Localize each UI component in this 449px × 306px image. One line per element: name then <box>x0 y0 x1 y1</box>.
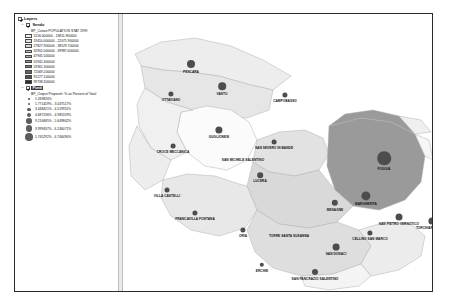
layer-checkbox-punti[interactable] <box>26 86 30 90</box>
class-swatch <box>25 60 32 64</box>
symbol-swatch <box>23 133 35 141</box>
class-label: 27827.900000 - 38529.700000 <box>34 44 79 48</box>
map-label-san-michele-salentino: SAN MICHELE SALENTINO <box>222 158 264 162</box>
map-label-ottaviano: OTTAVIANO <box>162 98 181 102</box>
class-label: 19410.000000 - 22071.900000 <box>34 39 79 43</box>
table-of-contents-panel[interactable]: Layers − Sendo BP_Cutout POPULATION STAT… <box>15 14 118 291</box>
layer-field-punti: BP_Output Proporzh: % as Percent of Tota… <box>31 92 116 96</box>
map-label-san-pietro-vernotico: SAN PIETRO VERNOTICO <box>379 222 419 226</box>
map-label-campobasso: CAMPOBASSO <box>273 99 297 103</box>
symbol-swatch <box>23 98 35 100</box>
expander-minus-icon[interactable]: − <box>20 23 25 28</box>
map-symbol[interactable] <box>165 188 170 193</box>
legend-symbol-row[interactable]: 1.771459% - 3.047517% <box>23 102 116 106</box>
map-label-oria: ORIA <box>239 234 247 238</box>
map-symbol[interactable] <box>218 82 226 90</box>
map-label-croce-meccanica: CROCE MECCANICA <box>157 150 190 154</box>
class-swatch <box>25 65 32 69</box>
class-swatch <box>25 55 32 59</box>
map-label-margherita: MARGHERITA <box>355 202 377 206</box>
map-symbol[interactable] <box>312 269 318 275</box>
class-swatch <box>25 80 32 84</box>
legend-class-row[interactable]: 27827.900000 - 38529.700000 <box>25 44 116 48</box>
legend-symbol-row[interactable]: 9.216685% - 5.649842% <box>23 118 116 124</box>
legend-class-row[interactable]: 5156.000000 - 13811.900000 <box>25 34 116 38</box>
class-swatch <box>25 75 32 79</box>
map-label-guglionesi: GUGLIONESI <box>209 135 230 139</box>
legend-symbol-row[interactable]: 4.687136% - 4.985319% <box>23 113 116 117</box>
symbol-label: 4.687136% - 4.985319% <box>35 113 71 117</box>
symbol-swatch <box>23 103 35 105</box>
legend-symbol-row[interactable]: 5.745292% - 6.746490% <box>23 133 116 141</box>
legend-class-row[interactable]: 72069.200000 <box>25 70 116 74</box>
map-label-san-pancrazio-salentino: SAN PANCRAZIO SALENTINO <box>292 277 339 281</box>
class-label: 99738.300000 <box>34 80 55 84</box>
map-symbol[interactable] <box>272 140 277 145</box>
class-label: 5156.000000 - 13811.900000 <box>34 34 77 38</box>
class-swatch <box>25 39 32 43</box>
class-label: 91277.100000 <box>34 75 55 79</box>
class-swatch <box>25 44 32 48</box>
layer-node-punti[interactable]: − Punti <box>20 85 116 90</box>
legend-class-row[interactable]: 55942.400000 <box>25 60 116 64</box>
layer-label-punti: Punti <box>31 86 43 90</box>
map-label-torre-santa-susanna: TORRE SANTA SUSANNA <box>269 234 309 238</box>
class-label: 59361.300000 <box>34 65 55 69</box>
legend-class-row[interactable]: 91277.100000 <box>25 75 116 79</box>
class-label: 72069.200000 <box>34 70 55 74</box>
symbol-swatch <box>23 118 35 124</box>
map-view[interactable]: PESCARA OTTAVIANO VASTO CAMPOBASSO GUGLI… <box>123 14 432 291</box>
map-label-erchie: ERCHIE <box>256 269 268 273</box>
map-label-cellino-san-marco: CELLINO SAN MARCO <box>352 237 387 241</box>
class-swatch <box>25 70 32 74</box>
map-label-mesagne: MESAGNE <box>327 208 343 212</box>
map-label-foggia: FOGGIA <box>378 167 391 171</box>
toc-root-label: Layers <box>24 17 38 21</box>
map-symbol[interactable] <box>396 214 403 221</box>
root-checkbox[interactable] <box>18 17 22 21</box>
symbol-swatch <box>23 108 35 111</box>
symbol-label: 9.216685% - 5.649842% <box>35 119 71 123</box>
map-label-torchiarolo: TORCHIAROLO <box>416 226 432 230</box>
legend-symbol-row[interactable]: 1.269826% <box>23 97 116 101</box>
gis-application-window: Layers − Sendo BP_Cutout POPULATION STAT… <box>14 13 433 292</box>
class-label: 32902.000000 - 39987.600000 <box>34 49 79 53</box>
legend-class-row[interactable]: 99738.300000 <box>25 80 116 84</box>
legend-class-row[interactable]: 47945.500000 <box>25 54 116 58</box>
map-symbol[interactable] <box>333 244 340 251</box>
toc-root-node[interactable]: Layers <box>18 17 116 21</box>
map-label-villa-castelli: VILLA CASTELLI <box>154 194 180 198</box>
symbol-label: 1.771459% - 3.047517% <box>35 102 71 106</box>
map-symbol[interactable] <box>428 217 432 224</box>
layer-label-sendo: Sendo <box>31 23 45 27</box>
legend-symbol-row[interactable]: 3.448421% - 4.519911% <box>23 107 116 111</box>
legend-class-row[interactable]: 59361.300000 <box>25 65 116 69</box>
map-symbol[interactable] <box>171 144 176 149</box>
map-label-san-severo: SAN SEVERO IN BANDE <box>255 146 293 150</box>
map-label-san-donaci: SAN DONACI <box>326 252 347 256</box>
map-symbol[interactable] <box>187 60 195 68</box>
legend-class-row[interactable]: 32902.000000 - 39987.600000 <box>25 49 116 53</box>
symbol-label: 3.448421% - 4.519911% <box>35 107 71 111</box>
map-label-lucera: LUCERA <box>253 179 267 183</box>
symbol-label: 3.999437% - 6.246071% <box>35 127 71 131</box>
symbol-label: 1.269826% <box>35 97 52 101</box>
map-symbol[interactable] <box>257 172 263 178</box>
map-label-vasto: VASTO <box>217 92 228 96</box>
map-label-francavilla-fontana: FRANCAVILLA FONTANA <box>175 217 215 221</box>
class-swatch <box>25 34 32 38</box>
symbol-label: 5.745292% - 6.746490% <box>35 135 71 139</box>
map-label-pescara: PESCARA <box>183 70 199 74</box>
legend-class-row[interactable]: 19410.000000 - 22071.900000 <box>25 39 116 43</box>
expander-minus-icon[interactable]: − <box>20 85 25 90</box>
legend-symbol-row[interactable]: 3.999437% - 6.246071% <box>23 125 116 132</box>
class-label: 47945.500000 <box>34 54 55 58</box>
symbol-swatch <box>23 125 35 132</box>
map-symbol[interactable] <box>377 151 391 165</box>
layer-field-sendo: BP_Cutout POPULATION STAT 1999 <box>31 29 116 33</box>
layer-checkbox-sendo[interactable] <box>26 23 30 27</box>
layer-node-sendo[interactable]: − Sendo <box>20 23 116 28</box>
class-label: 55942.400000 <box>34 60 55 64</box>
symbol-swatch <box>23 113 35 117</box>
class-swatch <box>25 50 32 54</box>
